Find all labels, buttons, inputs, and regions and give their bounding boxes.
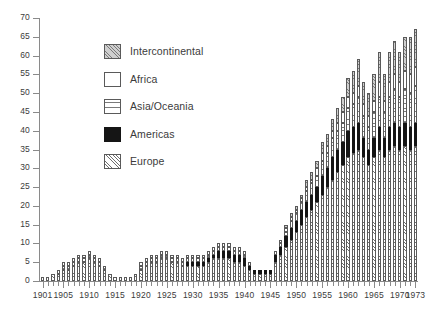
bar-segment-africa <box>186 255 189 259</box>
bar-segment-americas <box>383 138 386 157</box>
bar-segment-europe <box>41 277 44 281</box>
bar-segment-africa <box>321 153 324 161</box>
bar-segment-americas <box>388 127 391 150</box>
bar-segment-europe <box>279 255 282 281</box>
bar-segment-africa <box>67 262 70 266</box>
bar-1919 <box>134 274 137 282</box>
bar-1943 <box>258 270 261 281</box>
bar-segment-africa <box>378 82 381 97</box>
x-tick-major <box>245 282 246 288</box>
x-tick-label: 1955 <box>308 291 336 300</box>
bar-segment-europe <box>103 270 106 281</box>
x-tick-label: 1965 <box>360 291 388 300</box>
bar-segment-asia-oceania <box>398 97 401 127</box>
x-tick-label: 1930 <box>179 291 207 300</box>
bar-segment-asia-oceania <box>352 104 355 127</box>
bar-1933 <box>207 251 210 281</box>
bar-segment-europe <box>233 262 236 281</box>
bar-segment-asia-oceania <box>202 258 205 262</box>
bar-segment-europe <box>414 146 417 281</box>
bar-1970 <box>398 52 401 281</box>
y-tick <box>33 262 40 263</box>
bar-1956 <box>326 134 329 281</box>
y-tick-label: 25 <box>4 182 30 191</box>
bar-segment-intercontinental <box>290 213 293 217</box>
bar-segment-americas <box>274 255 277 263</box>
x-tick-label: 1940 <box>231 291 259 300</box>
bar-segment-intercontinental <box>336 108 339 123</box>
bar-1921 <box>145 258 148 281</box>
y-tick-label: 50 <box>4 88 30 97</box>
bar-segment-americas <box>186 262 189 266</box>
bar-segment-intercontinental <box>388 52 391 82</box>
bar-segment-europe <box>310 210 313 281</box>
bar-segment-americas <box>269 270 272 274</box>
bar-1929 <box>186 255 189 281</box>
bar-segment-intercontinental <box>310 172 313 180</box>
bar-segment-africa <box>372 101 375 112</box>
bar-1961 <box>352 71 355 281</box>
bar-segment-africa <box>290 217 293 221</box>
y-tick <box>33 93 40 94</box>
bar-segment-africa <box>227 243 230 247</box>
bar-segment-asia-oceania <box>155 258 158 262</box>
x-tick-label: 1935 <box>205 291 233 300</box>
bar-segment-americas <box>393 123 396 146</box>
bar-segment-americas <box>279 247 282 255</box>
bar-segment-intercontinental <box>414 29 417 67</box>
x-tick-minor <box>208 282 209 286</box>
x-tick-minor <box>291 282 292 286</box>
bar-segment-europe <box>108 274 111 282</box>
x-tick-minor <box>410 282 411 286</box>
bar-segment-asia-oceania <box>103 266 106 270</box>
y-tick-label: 70 <box>4 13 30 22</box>
bar-segment-asia-oceania <box>315 176 318 187</box>
bar-segment-europe <box>258 274 261 282</box>
bar-segment-asia-oceania <box>305 191 308 202</box>
bar-segment-americas <box>398 127 401 150</box>
bar-segment-americas <box>212 255 215 259</box>
bar-1966 <box>378 52 381 281</box>
bar-segment-asia-oceania <box>238 251 241 255</box>
bar-segment-asia-oceania <box>191 258 194 262</box>
bar-segment-europe <box>409 150 412 282</box>
bar-segment-intercontinental <box>331 119 334 130</box>
x-tick-label: 1920 <box>127 291 155 300</box>
bar-segment-asia-oceania <box>383 112 386 138</box>
bar-segment-europe <box>82 262 85 281</box>
bar-segment-americas <box>414 123 417 146</box>
bar-1901 <box>41 277 44 281</box>
x-tick-major <box>141 282 142 288</box>
bar-segment-europe <box>284 247 287 281</box>
x-tick-major <box>63 282 64 288</box>
bar-segment-africa <box>367 116 370 127</box>
bar-segment-africa <box>145 258 148 262</box>
bar-segment-intercontinental <box>321 142 324 153</box>
bar-1906 <box>67 262 70 281</box>
bar-1936 <box>222 243 225 281</box>
bar-segment-africa <box>217 243 220 247</box>
bar-segment-africa <box>346 97 349 108</box>
bar-segment-asia-oceania <box>181 262 184 266</box>
x-tick-minor <box>384 282 385 286</box>
bar-1967 <box>383 74 386 281</box>
bar-1908 <box>77 255 80 281</box>
bar-segment-europe <box>160 258 163 281</box>
bar-segment-asia-oceania <box>393 89 396 123</box>
y-tick <box>33 150 40 151</box>
bar-segment-africa <box>341 112 344 123</box>
bar-1905 <box>62 262 65 281</box>
bar-segment-europe <box>202 266 205 281</box>
bar-segment-africa <box>357 86 360 97</box>
bar-1971 <box>403 37 406 281</box>
legend-item-label: Asia/Oceania <box>130 100 194 112</box>
bar-1927 <box>176 255 179 281</box>
bar-1945 <box>269 270 272 281</box>
bar-1944 <box>264 270 267 281</box>
horizontal-lines-swatch-icon <box>104 99 121 114</box>
bar-1917 <box>124 277 127 281</box>
bar-segment-asia-oceania <box>88 255 91 259</box>
y-tick-label: 45 <box>4 107 30 116</box>
bar-1968 <box>388 52 391 281</box>
x-tick-minor <box>224 282 225 286</box>
